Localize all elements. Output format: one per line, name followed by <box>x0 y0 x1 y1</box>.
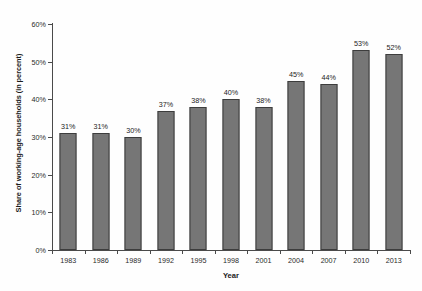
bar-value-label: 53% <box>354 39 368 48</box>
bar-value-label: 30% <box>126 126 140 135</box>
x-tick-label: 1998 <box>223 256 239 265</box>
x-tick-mark <box>312 250 313 254</box>
bar-slot: 52% <box>377 24 410 250</box>
y-tick-label: 0% <box>36 246 46 255</box>
bar-slot: 30% <box>117 24 150 250</box>
bar[interactable] <box>255 107 272 250</box>
bar-slot: 37% <box>150 24 183 250</box>
bar[interactable] <box>385 54 402 250</box>
bar-value-label: 31% <box>94 122 108 131</box>
x-axis-title: Year <box>52 271 410 280</box>
x-tick-label: 1995 <box>190 256 206 265</box>
bar-value-label: 38% <box>191 96 205 105</box>
x-tick-label: 2010 <box>353 256 369 265</box>
x-tick-mark <box>410 250 411 254</box>
y-tick-label: 20% <box>32 170 46 179</box>
x-tick-label: 2004 <box>288 256 304 265</box>
x-tick-label: 1983 <box>60 256 76 265</box>
bar-value-label: 44% <box>321 73 335 82</box>
y-tick-label: 10% <box>32 208 46 217</box>
x-tick-label: 2001 <box>256 256 272 265</box>
bar-value-label: 38% <box>256 96 270 105</box>
x-tick-label: 1989 <box>125 256 141 265</box>
bar-chart: Share of working-age households (in perc… <box>0 0 422 291</box>
x-tick-label: 2013 <box>386 256 402 265</box>
x-tick-mark <box>117 250 118 254</box>
bar[interactable] <box>320 84 337 250</box>
x-tick-label: 1986 <box>93 256 109 265</box>
bar-slot: 44% <box>312 24 345 250</box>
bar-slot: 53% <box>345 24 378 250</box>
bar[interactable] <box>60 133 77 250</box>
bar-value-label: 52% <box>387 43 401 52</box>
x-tick-label: 1992 <box>158 256 174 265</box>
bar[interactable] <box>125 137 142 250</box>
bar-slot: 40% <box>215 24 248 250</box>
y-tick-label: 60% <box>32 20 46 29</box>
bar[interactable] <box>92 133 109 250</box>
x-tick-mark <box>215 250 216 254</box>
x-tick-label: 2007 <box>321 256 337 265</box>
x-tick-mark <box>52 250 53 254</box>
bar-value-label: 45% <box>289 70 303 79</box>
plot-area: 0%10%20%30%40%50%60% 31%31%30%37%38%40%3… <box>52 24 410 250</box>
x-axis-line <box>52 250 411 251</box>
x-tick-mark <box>345 250 346 254</box>
y-tick-label: 30% <box>32 133 46 142</box>
bar-slot: 38% <box>182 24 215 250</box>
x-tick-mark <box>182 250 183 254</box>
bar-value-label: 37% <box>159 100 173 109</box>
bar[interactable] <box>190 107 207 250</box>
bar[interactable] <box>353 50 370 250</box>
bar[interactable] <box>222 99 239 250</box>
bar-slot: 38% <box>247 24 280 250</box>
x-tick-mark <box>280 250 281 254</box>
x-tick-mark <box>377 250 378 254</box>
y-axis-title: Share of working-age households (in perc… <box>12 8 26 258</box>
bar-value-label: 40% <box>224 88 238 97</box>
bar[interactable] <box>288 81 305 251</box>
x-tick-mark <box>150 250 151 254</box>
bar-slot: 45% <box>280 24 313 250</box>
y-tick-label: 40% <box>32 95 46 104</box>
bar-slot: 31% <box>85 24 118 250</box>
x-tick-mark <box>85 250 86 254</box>
y-tick-label: 50% <box>32 57 46 66</box>
bar[interactable] <box>157 111 174 250</box>
x-tick-mark <box>247 250 248 254</box>
bar-slot: 31% <box>52 24 85 250</box>
bar-value-label: 31% <box>61 122 75 131</box>
